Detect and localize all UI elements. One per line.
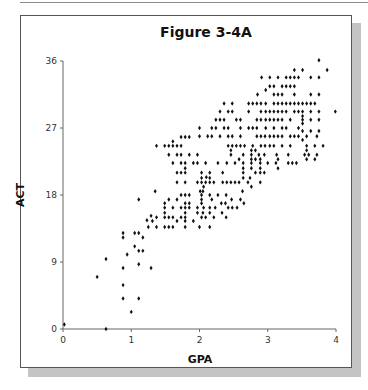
- data-point: [276, 92, 279, 96]
- data-point: [184, 201, 187, 205]
- data-point: [305, 101, 308, 105]
- data-point: [130, 310, 133, 314]
- data-point: [272, 84, 275, 88]
- data-point: [225, 193, 228, 197]
- data-point: [233, 161, 236, 165]
- data-point: [309, 109, 312, 113]
- x-tick-label: 4: [333, 335, 339, 345]
- data-point: [276, 109, 279, 113]
- data-point: [163, 205, 166, 209]
- data-point: [242, 201, 245, 205]
- data-point: [287, 161, 290, 165]
- data-point: [216, 193, 219, 197]
- data-point: [268, 75, 271, 79]
- data-point: [309, 101, 312, 105]
- data-point: [180, 170, 183, 174]
- data-point: [264, 101, 267, 105]
- data-point: [266, 161, 269, 165]
- data-point: [155, 144, 158, 148]
- data-point: [297, 134, 300, 138]
- data-point: [305, 148, 308, 152]
- data-point: [239, 134, 242, 138]
- data-point: [163, 215, 166, 219]
- data-point: [200, 180, 203, 184]
- data-point: [287, 153, 290, 157]
- data-point: [163, 225, 166, 229]
- data-point: [293, 134, 296, 138]
- data-point: [301, 101, 304, 105]
- data-point: [297, 126, 300, 130]
- data-point: [196, 211, 199, 215]
- data-point: [201, 211, 204, 215]
- data-point: [263, 170, 266, 174]
- data-point: [208, 180, 211, 184]
- data-point: [221, 211, 224, 215]
- data-point: [309, 129, 312, 133]
- data-point: [122, 235, 125, 239]
- data-point: [210, 197, 213, 201]
- data-point: [188, 201, 191, 205]
- data-point: [229, 153, 232, 157]
- data-point: [167, 197, 170, 201]
- data-point: [272, 101, 275, 105]
- data-point: [255, 101, 258, 105]
- data-point: [206, 134, 209, 138]
- data-point: [259, 157, 262, 161]
- data-point: [313, 101, 316, 105]
- data-point: [210, 126, 213, 130]
- data-point: [184, 170, 187, 174]
- data-point: [188, 153, 191, 157]
- data-point: [263, 153, 266, 157]
- data-point: [281, 144, 284, 148]
- data-point: [276, 157, 279, 161]
- data-point: [150, 214, 153, 218]
- data-point: [268, 84, 271, 88]
- data-point: [225, 180, 228, 184]
- data-point: [254, 148, 257, 152]
- data-point: [297, 109, 300, 113]
- data-point: [225, 215, 228, 219]
- data-point: [301, 138, 304, 142]
- data-point: [242, 161, 245, 165]
- x-tick-label: 1: [128, 335, 134, 345]
- data-point: [243, 144, 246, 148]
- data-point: [210, 134, 213, 138]
- data-point: [188, 135, 191, 139]
- data-point: [137, 231, 140, 235]
- data-point: [317, 118, 320, 122]
- data-point: [104, 327, 107, 331]
- data-point: [285, 126, 288, 130]
- data-point: [171, 225, 174, 229]
- data-point: [208, 205, 211, 209]
- data-point: [175, 170, 178, 174]
- data-point: [274, 161, 277, 165]
- data-point: [281, 101, 284, 105]
- data-point: [204, 180, 207, 184]
- data-point: [163, 201, 166, 205]
- data-point: [151, 219, 154, 223]
- data-point: [301, 121, 304, 125]
- data-point: [285, 101, 288, 105]
- data-point: [291, 161, 294, 165]
- data-point: [249, 176, 252, 180]
- data-point: [196, 161, 199, 165]
- data-point: [227, 144, 230, 148]
- data-point: [227, 134, 230, 138]
- data-point: [200, 215, 203, 219]
- data-point: [196, 153, 199, 157]
- data-point: [313, 157, 316, 161]
- data-point: [250, 166, 253, 170]
- y-tick-label: 9: [51, 257, 57, 267]
- data-point: [200, 197, 203, 201]
- data-point: [233, 180, 236, 184]
- y-tick-label: 18: [46, 190, 58, 200]
- data-point: [259, 118, 262, 122]
- data-point: [145, 218, 148, 222]
- data-point: [317, 92, 320, 96]
- data-point: [285, 75, 288, 79]
- data-point: [212, 215, 215, 219]
- data-point: [199, 189, 202, 193]
- data-point: [122, 283, 125, 287]
- data-point: [317, 109, 320, 113]
- data-point: [223, 126, 226, 130]
